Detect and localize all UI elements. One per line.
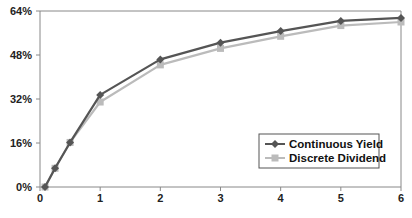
y-tick-label: 0% xyxy=(16,181,32,193)
y-tick-label: 64% xyxy=(10,5,32,17)
x-tick-label: 4 xyxy=(278,192,285,204)
x-tick-label: 2 xyxy=(157,192,163,204)
x-tick-label: 6 xyxy=(398,192,404,204)
y-tick-label: 48% xyxy=(10,49,32,61)
y-tick-label: 32% xyxy=(10,93,32,105)
x-tick-label: 1 xyxy=(97,192,103,204)
x-tick-label: 3 xyxy=(217,192,223,204)
legend-marker xyxy=(272,155,279,162)
x-tick-label: 5 xyxy=(338,192,344,204)
y-tick-label: 16% xyxy=(10,137,32,149)
line-chart: 0%16%32%48%64%0123456 Continuous YieldDi… xyxy=(0,0,412,218)
legend-label: Continuous Yield xyxy=(289,138,383,150)
legend: Continuous YieldDiscrete Dividend xyxy=(259,134,386,168)
legend-label: Discrete Dividend xyxy=(289,152,386,164)
x-tick-label: 0 xyxy=(37,192,43,204)
axes: 0%16%32%48%64%0123456 xyxy=(10,5,404,204)
